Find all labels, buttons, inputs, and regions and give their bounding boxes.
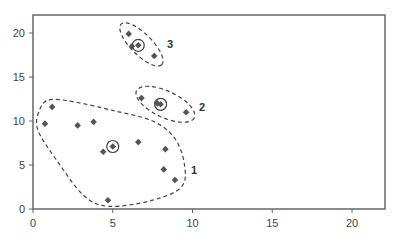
y-tick-label: 15 <box>13 71 25 83</box>
cluster-2-outline <box>131 79 200 130</box>
data-point-diamond <box>100 149 107 156</box>
data-point-diamond <box>109 143 116 150</box>
y-tick-label: 5 <box>19 159 25 171</box>
data-points <box>42 31 190 204</box>
data-point-diamond <box>74 122 81 129</box>
cluster-label-2: 2 <box>199 101 205 113</box>
x-tick-label: 0 <box>30 217 36 229</box>
scatter-chart: 123 0510152005101520 <box>0 0 397 241</box>
data-point-diamond <box>49 104 56 111</box>
data-point-diamond <box>105 197 112 204</box>
plot-border <box>33 15 385 209</box>
data-point-diamond <box>90 119 97 126</box>
data-point-diamond <box>162 146 169 153</box>
x-tick-label: 10 <box>186 217 198 229</box>
plot-frame <box>33 15 385 209</box>
data-point-diamond <box>42 120 49 127</box>
data-point-diamond <box>160 166 167 173</box>
cluster-label-1: 1 <box>191 164 197 176</box>
cluster-3-outline <box>114 17 170 73</box>
data-point-diamond <box>135 42 142 49</box>
y-tick-label: 20 <box>13 27 25 39</box>
x-tick-label: 5 <box>110 217 116 229</box>
cluster-1-outline <box>36 99 185 206</box>
x-tick-label: 20 <box>346 217 358 229</box>
cluster-label-3: 3 <box>167 38 173 50</box>
axes: 0510152005101520 <box>13 27 358 229</box>
data-point-diamond <box>172 177 179 184</box>
y-tick-label: 10 <box>13 115 25 127</box>
y-tick-label: 0 <box>19 203 25 215</box>
x-tick-label: 15 <box>266 217 278 229</box>
data-point-diamond <box>151 53 158 60</box>
data-point-diamond <box>125 31 132 38</box>
cluster-labels: 123 <box>167 38 205 177</box>
data-point-diamond <box>183 109 190 116</box>
data-point-diamond <box>135 139 142 146</box>
